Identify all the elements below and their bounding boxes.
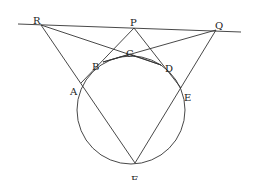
point-label-E: E xyxy=(184,92,191,103)
point-label-C: C xyxy=(126,48,134,59)
point-label-B: B xyxy=(92,61,99,72)
segment-C-D xyxy=(130,54,161,65)
geometry-diagram: RPQCBDAEF xyxy=(0,0,255,180)
point-label-D: D xyxy=(165,63,173,74)
point-label-R: R xyxy=(33,15,41,26)
point-label-Q: Q xyxy=(215,20,223,31)
point-label-P: P xyxy=(130,17,137,28)
point-label-A: A xyxy=(69,86,78,97)
diagram-canvas: RPQCBDAEF xyxy=(0,0,255,180)
point-label-F: F xyxy=(131,174,138,180)
